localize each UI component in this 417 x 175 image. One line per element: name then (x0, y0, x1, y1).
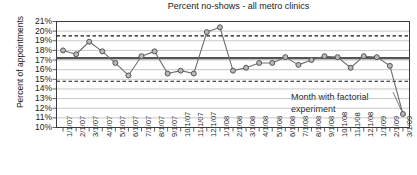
data-point (217, 25, 222, 30)
data-point (283, 55, 288, 60)
data-point (87, 39, 92, 44)
data-point (165, 71, 170, 76)
data-point (231, 68, 236, 73)
plot-area (0, 0, 417, 175)
data-point (387, 63, 392, 68)
data-point (178, 68, 183, 73)
data-point (61, 48, 66, 53)
data-point (152, 49, 157, 54)
data-point (204, 30, 209, 35)
chart-container: Percent no-shows - all metro clinics Per… (0, 0, 417, 175)
data-point (257, 60, 262, 65)
data-point (244, 65, 249, 70)
data-point (191, 71, 196, 76)
plot-border (57, 22, 410, 128)
data-point (348, 65, 353, 70)
data-point (270, 60, 275, 65)
data-point (113, 60, 118, 65)
data-point (74, 52, 79, 57)
data-point (309, 58, 314, 63)
data-point (374, 55, 379, 60)
data-point (100, 49, 105, 54)
data-point (139, 54, 144, 59)
data-point (322, 54, 327, 59)
data-point (361, 54, 366, 59)
data-point (296, 62, 301, 67)
data-point (126, 73, 131, 78)
data-point (335, 55, 340, 60)
data-point (400, 112, 405, 117)
